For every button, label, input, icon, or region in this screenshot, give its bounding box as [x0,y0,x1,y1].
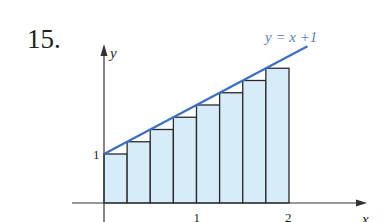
x-tick-label: 2 [285,210,292,222]
y-axis-label: y [108,45,117,61]
riemann-rectangle [243,81,266,204]
x-axis-arrow-icon [356,200,367,207]
riemann-rectangle [173,117,196,203]
x-axis-label: x [361,211,369,222]
x-tick-label: 1 [194,210,201,222]
riemann-rectangle [220,93,243,203]
function-label: y = x +1 [263,29,317,45]
riemann-sum-chart: yx112y = x +1 [0,0,385,222]
y-axis-arrow-icon [101,44,108,56]
y-tick-label: 1 [93,147,100,162]
riemann-rectangle [266,68,289,203]
riemann-rectangle [104,154,127,203]
riemann-rectangle [197,105,220,203]
riemann-rectangle [150,130,173,204]
riemann-rectangle [127,142,150,203]
